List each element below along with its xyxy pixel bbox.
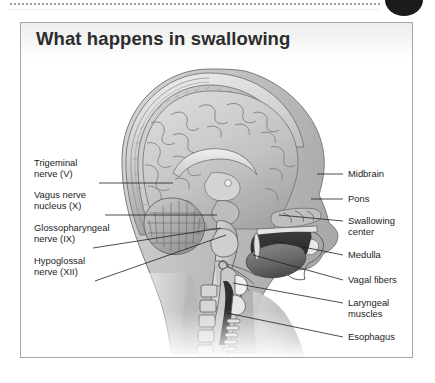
label-trigeminal-nerve: Trigeminal nerve (V)	[34, 157, 77, 180]
label-laryngeal-muscles: Laryngeal muscles	[348, 297, 389, 320]
corner-badge	[385, 0, 423, 16]
label-hypoglossal-nerve: Hypoglossal nerve (XII)	[34, 255, 85, 278]
label-vagus-nerve-nucleus: Vagus nerve nucleus (X)	[34, 189, 86, 212]
top-dotted-rule	[10, 3, 380, 5]
label-swallowing-center: Swallowing center	[348, 215, 395, 238]
label-medulla: Medulla	[348, 249, 381, 260]
label-midbrain: Midbrain	[348, 168, 384, 179]
label-glossopharyngeal-nerve: Glossopharyngeal nerve (IX)	[34, 222, 110, 245]
top-dotted-rule-secondary	[10, 9, 380, 10]
label-pons: Pons	[348, 193, 369, 204]
figure-panel: What happens in swallowing	[20, 22, 413, 358]
label-vagal-fibers: Vagal fibers	[348, 274, 397, 285]
label-esophagus: Esophagus	[348, 331, 395, 342]
